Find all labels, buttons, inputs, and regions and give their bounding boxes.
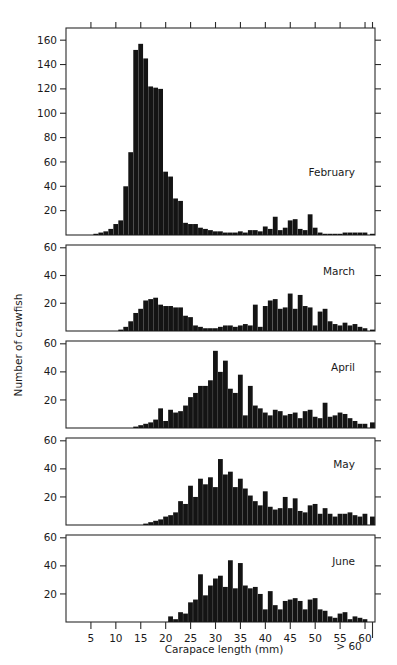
histogram-bar <box>353 515 358 525</box>
histogram-bar <box>138 425 143 428</box>
histogram-bar <box>223 361 228 428</box>
histogram-bar <box>283 497 288 525</box>
histogram-bar <box>370 422 375 428</box>
histogram-bar <box>318 233 323 235</box>
histogram-bar <box>143 424 148 428</box>
histogram-bar <box>198 228 203 235</box>
histogram-bar <box>318 609 323 622</box>
histogram-bar <box>198 574 203 622</box>
histogram-bar <box>338 325 343 331</box>
histogram-bar <box>153 420 158 428</box>
histogram-bar <box>248 496 253 525</box>
histogram-bar <box>353 324 358 331</box>
histogram-bar <box>288 600 293 622</box>
histogram-bar <box>153 88 158 235</box>
histogram-bar <box>343 233 348 235</box>
histogram-bar <box>163 306 168 331</box>
histogram-bar <box>313 228 318 235</box>
histogram-bar <box>178 411 183 428</box>
histogram-bar <box>238 231 243 235</box>
y-tick-label: 60 <box>44 156 57 168</box>
histogram-bar <box>118 330 123 331</box>
histogram-bar <box>273 217 278 235</box>
histogram-bar <box>263 609 268 622</box>
histogram-bar <box>363 328 368 331</box>
histogram-bar <box>343 612 348 622</box>
histogram-bar <box>208 380 213 428</box>
histogram-bar <box>153 521 158 525</box>
histogram-bar <box>193 393 198 428</box>
panel-may: 204060May <box>44 434 381 525</box>
histogram-bar <box>273 299 278 331</box>
histogram-bar <box>328 321 333 331</box>
histogram-bar <box>168 177 173 235</box>
x-tick-label: 5 <box>88 632 95 644</box>
histogram-bar <box>218 327 223 331</box>
histogram-bar <box>323 508 328 525</box>
histogram-bar <box>168 410 173 428</box>
panel-june: 204060June <box>44 531 381 622</box>
histogram-bar <box>198 479 203 525</box>
histogram-bar <box>328 514 333 525</box>
histogram-bar <box>358 517 363 525</box>
histogram-bar <box>178 501 183 525</box>
histogram-bar <box>298 511 303 525</box>
histogram-bar <box>218 372 223 428</box>
panel-march: 204060March <box>44 241 381 331</box>
histogram-bar <box>203 595 208 622</box>
histogram-bar <box>370 517 375 525</box>
histogram-bar <box>223 325 228 331</box>
histogram-bar <box>258 594 263 622</box>
histogram-bar <box>343 323 348 331</box>
histogram-bar <box>213 487 218 525</box>
bars-february <box>93 44 374 235</box>
histogram-bar <box>283 415 288 428</box>
histogram-bar <box>243 415 248 428</box>
histogram-bar <box>303 609 308 622</box>
panel-month-label-may: May <box>333 458 355 470</box>
histogram-bar <box>183 504 188 525</box>
histogram-bar <box>358 424 363 428</box>
histogram-bar <box>328 616 333 622</box>
panel-april: 204060April <box>44 337 381 428</box>
histogram-bar <box>143 300 148 331</box>
histogram-bar <box>353 616 358 622</box>
histogram-bar <box>163 517 168 525</box>
y-tick-label: 20 <box>44 588 57 600</box>
histogram-bar <box>338 234 343 235</box>
histogram-bar <box>108 229 113 235</box>
histogram-bar <box>173 413 178 428</box>
histogram-bar <box>238 563 243 622</box>
histogram-bar <box>168 616 173 622</box>
histogram-bar <box>153 298 158 331</box>
histogram-bar <box>323 611 328 622</box>
histogram-bar <box>183 406 188 428</box>
histogram-bar <box>283 228 288 235</box>
histogram-bar <box>168 515 173 525</box>
histogram-bar <box>163 172 168 235</box>
histogram-bar <box>218 231 223 235</box>
histogram-bar <box>333 517 338 525</box>
histogram-bar <box>253 305 258 331</box>
panels-group: 20406080100120140160February204060March2… <box>37 22 381 622</box>
histogram-bar <box>148 522 153 525</box>
panel-february: 20406080100120140160February <box>37 22 381 235</box>
histogram-bar <box>278 508 283 525</box>
histogram-bar <box>268 229 273 235</box>
histogram-bar <box>323 309 328 331</box>
histogram-bar <box>188 486 193 525</box>
y-tick-label: 40 <box>44 462 57 474</box>
histogram-bar <box>183 223 188 235</box>
histogram-bar <box>238 375 243 428</box>
histogram-bar <box>278 309 283 331</box>
y-tick-label: 40 <box>44 269 57 281</box>
histogram-bar <box>148 299 153 331</box>
histogram-bar <box>173 619 178 622</box>
histogram-bar <box>183 316 188 331</box>
histogram-bar <box>188 602 193 622</box>
y-tick-label: 60 <box>44 337 57 349</box>
histogram-bar <box>223 587 228 622</box>
histogram-bar <box>183 614 188 622</box>
histogram-bar <box>158 89 163 235</box>
histogram-bar <box>163 421 168 428</box>
